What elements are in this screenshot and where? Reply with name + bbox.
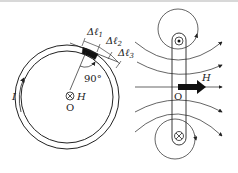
label-field-right: H (201, 72, 211, 83)
label-angle: 90° (84, 73, 102, 84)
field-into-page-icon (66, 92, 74, 100)
current-into-page-icon (175, 132, 184, 141)
current-out-of-page-icon (175, 37, 183, 45)
label-delta-l3: Δℓ3 (117, 47, 134, 60)
diagram-canvas: Δℓ1 Δℓ2 Δℓ3 90° I H O (0, 0, 238, 173)
label-field-left: H (76, 91, 86, 102)
right-angle-arc (80, 62, 95, 67)
ring-core (15, 45, 119, 149)
label-center-left: O (66, 102, 74, 113)
field-loop-bottom (155, 119, 195, 159)
label-current: I (11, 91, 17, 102)
label-delta-l1: Δℓ1 (86, 26, 103, 39)
field-loop-top (158, 9, 198, 49)
label-center-right: O (174, 91, 182, 102)
radius-line (70, 52, 86, 90)
